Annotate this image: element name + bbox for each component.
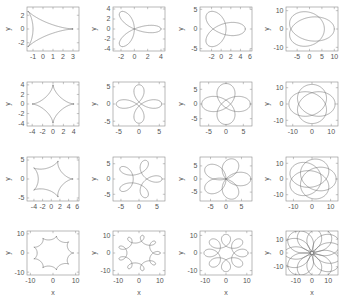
y-tick-label: 10	[275, 159, 283, 166]
subplot-plot-r4c4: -10010-10010yx	[259, 224, 345, 299]
y-tick-label: 10	[275, 84, 283, 91]
y-axis-title: y	[177, 251, 185, 255]
subplot-plot-r2c2: -505-505y	[86, 75, 172, 150]
x-tick-label: 4	[67, 203, 71, 210]
axes-frame	[200, 231, 252, 275]
x-tick-label: -10	[288, 203, 298, 210]
x-tick-label: 0	[137, 203, 141, 210]
x-tick-label: 10	[242, 277, 250, 284]
subplot-plot-r1c4: -50510-10010y	[259, 0, 345, 75]
x-tick-label: 2	[61, 128, 65, 135]
y-tick-label: 0	[279, 175, 283, 182]
x-tick-label: 10	[330, 53, 338, 60]
curve-path	[28, 11, 73, 47]
y-tick-label: 0	[107, 250, 111, 257]
x-tick-label: 10	[156, 277, 164, 284]
y-axis-title: y	[4, 102, 12, 106]
x-tick-label: 5	[320, 53, 324, 60]
axes-frame	[113, 231, 165, 275]
y-tick-label: 10	[17, 231, 25, 238]
x-tick-label: 5	[158, 128, 162, 135]
y-axis-title: y	[4, 251, 12, 255]
x-tick-label: 0	[137, 128, 141, 135]
y-axis-title: y	[90, 27, 98, 31]
x-tick-label: -4	[31, 203, 37, 210]
curve-path	[120, 160, 162, 197]
y-tick-label: -5	[18, 194, 24, 201]
axes-frame	[200, 82, 252, 126]
x-tick-label: -10	[200, 277, 210, 284]
y-tick-label: -4	[18, 119, 24, 126]
curve-path	[204, 158, 250, 198]
y-tick-label: 0	[107, 25, 111, 32]
subplot-plot-r4c3: -10010-10010yx	[173, 224, 259, 299]
y-tick-label: 5	[21, 156, 25, 163]
y-axis-title: y	[4, 27, 12, 31]
x-tick-label: 4	[238, 53, 242, 60]
x-tick-label: 0	[133, 53, 137, 60]
x-tick-label: 2	[146, 53, 150, 60]
plot-r1c3-canvas: -20246-505y	[173, 0, 259, 75]
curve-path	[119, 236, 160, 271]
x-tick-label: 3	[71, 53, 75, 60]
y-tick-label: 0	[193, 175, 197, 182]
plot-r1c4-canvas: -50510-10010y	[259, 0, 345, 75]
plot-r2c3-canvas: -505-505y	[173, 75, 259, 150]
x-tick-label: -10	[113, 277, 123, 284]
plot-r1c2-canvas: -2024-4-2024y	[86, 0, 172, 75]
x-tick-label: -2	[118, 53, 124, 60]
x-tick-label: -5	[207, 203, 213, 210]
plot-r3c1-canvas: -4-20246-505y	[0, 150, 86, 225]
axes-frame	[27, 82, 79, 126]
x-tick-label: -5	[118, 203, 124, 210]
y-axis-title: y	[4, 176, 12, 180]
x-tick-label: 10	[326, 203, 334, 210]
curve-path	[34, 160, 73, 196]
x-tick-label: -10	[287, 128, 297, 135]
y-tick-label: -10	[14, 269, 24, 276]
curve-path	[203, 235, 247, 272]
subplot-plot-r2c4: -10010-10010y	[259, 75, 345, 150]
y-tick-label: 0	[21, 175, 25, 182]
subplot-plot-r4c1: -10010-10010yx	[0, 224, 86, 299]
x-tick-label: 0	[137, 277, 141, 284]
y-tick-label: -2	[18, 39, 24, 46]
y-tick-label: 0	[279, 25, 283, 32]
plot-r2c4-canvas: -10010-10010y	[259, 75, 345, 150]
y-tick-label: -4	[105, 45, 111, 52]
y-axis-title: y	[263, 176, 271, 180]
y-tick-label: 10	[103, 232, 111, 239]
subplot-plot-r1c2: -2024-4-2024y	[86, 0, 172, 75]
x-tick-label: 0	[310, 128, 314, 135]
axes-frame	[286, 7, 338, 51]
curve-path	[201, 83, 250, 124]
axes-frame	[27, 157, 79, 201]
y-axis-title: y	[177, 27, 185, 31]
curve-path	[282, 227, 343, 279]
plot-r4c1-canvas: -10010-10010yx	[0, 224, 86, 299]
x-axis-title: x	[138, 289, 142, 296]
y-tick-label: 0	[193, 100, 197, 107]
curve-path	[205, 11, 244, 46]
y-tick-label: 0	[193, 25, 197, 32]
y-tick-label: -2	[105, 35, 111, 42]
y-tick-label: 0	[21, 100, 25, 107]
x-tick-label: 0	[51, 277, 55, 284]
x-tick-label: -5	[205, 128, 211, 135]
subplot-plot-r2c3: -505-505y	[173, 75, 259, 150]
x-tick-label: -5	[294, 53, 300, 60]
y-axis-title: y	[263, 251, 271, 255]
y-tick-label: -10	[101, 267, 111, 274]
x-tick-label: -10	[25, 277, 35, 284]
subplot-plot-r2c1: -4-2024-4-2024y	[0, 75, 86, 150]
x-tick-label: -4	[29, 128, 35, 135]
x-tick-label: 0	[219, 53, 223, 60]
y-tick-label: -10	[273, 263, 283, 270]
y-tick-label: -10	[187, 267, 197, 274]
y-axis-title: y	[263, 27, 271, 31]
y-tick-label: 4	[21, 81, 25, 88]
plot-grid: -10123-202y-2024-4-2024y-20246-505y-5051…	[0, 0, 345, 299]
subplot-plot-r3c4: -10010-10010y	[259, 150, 345, 225]
x-tick-label: 5	[239, 203, 243, 210]
x-tick-label: 0	[224, 277, 228, 284]
